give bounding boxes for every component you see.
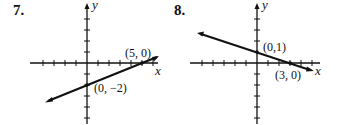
point-label: (5, 0): [125, 46, 151, 61]
point-label: (3, 0): [275, 68, 301, 83]
coordinate-plane: [0, 0, 168, 125]
point-label: (0, −2): [94, 81, 127, 96]
x-axis-label: x: [155, 63, 161, 79]
coordinate-plane: [168, 0, 337, 125]
figure-8: 8.: [168, 0, 337, 125]
x-axis-label: x: [315, 63, 321, 79]
point-label: (0,1): [263, 40, 286, 55]
figure-7: 7.: [0, 0, 168, 125]
y-axis-label: y: [92, 0, 98, 13]
y-axis-label: y: [262, 0, 268, 13]
